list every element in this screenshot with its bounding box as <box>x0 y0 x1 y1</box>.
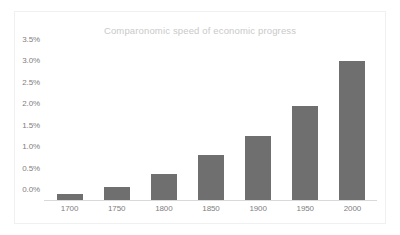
x-axis-tick-label: 1850 <box>187 204 234 218</box>
x-axis-tick-label: 1700 <box>46 204 93 218</box>
x-axis: 1700175018001850190019502000 <box>46 204 376 218</box>
y-axis-tick-label: 0.0% <box>22 185 40 194</box>
bar-slot <box>235 50 282 200</box>
bar-1700[interactable] <box>57 194 83 200</box>
bar-2000[interactable] <box>339 61 365 200</box>
y-axis-tick-label: 2.0% <box>22 99 40 108</box>
x-axis-line <box>44 200 377 201</box>
bar-1950[interactable] <box>292 106 318 200</box>
x-axis-tick-label: 1800 <box>140 204 187 218</box>
y-axis-tick-label: 2.5% <box>22 77 40 86</box>
bar-1750[interactable] <box>104 187 130 200</box>
bar-1850[interactable] <box>198 155 224 200</box>
x-axis-tick-label: 1950 <box>282 204 329 218</box>
bar-series <box>46 50 376 200</box>
chart-container: Comparonomic speed of economic progress … <box>14 11 386 224</box>
y-axis-tick-label: 1.0% <box>22 142 40 151</box>
bar-slot <box>187 50 234 200</box>
x-axis-tick-label: 2000 <box>329 204 376 218</box>
y-axis-tick-label: 3.0% <box>22 56 40 65</box>
y-axis-tick-label: 0.5% <box>22 163 40 172</box>
y-axis-tick-label: 3.5% <box>22 35 40 44</box>
bar-slot <box>93 50 140 200</box>
chart-title: Comparonomic speed of economic progress <box>15 25 385 36</box>
bar-1900[interactable] <box>245 136 271 200</box>
bar-slot <box>140 50 187 200</box>
x-axis-tick-label: 1900 <box>235 204 282 218</box>
x-axis-tick-label: 1750 <box>93 204 140 218</box>
bar-slot <box>46 50 93 200</box>
bar-slot <box>282 50 329 200</box>
bar-1800[interactable] <box>151 174 177 200</box>
y-axis-tick-label: 1.5% <box>22 120 40 129</box>
y-axis: 3.5%3.0%2.5%2.0%1.5%1.0%0.5%0.0% <box>15 39 43 200</box>
bar-slot <box>329 50 376 200</box>
